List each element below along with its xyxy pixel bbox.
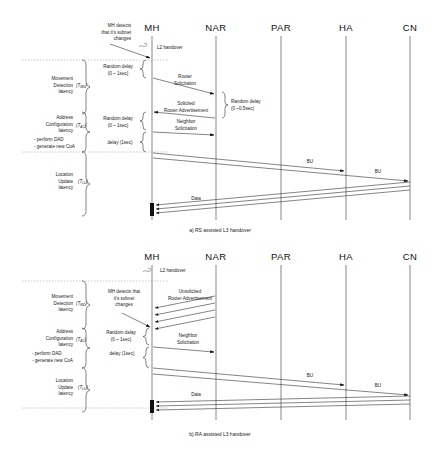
msg-ns-line2-a: Solicitation xyxy=(175,126,198,131)
msg-rs-line1-a: Router xyxy=(178,74,192,79)
phase-ac-line3-a: latency xyxy=(58,128,73,133)
node-header-mh-b: MH xyxy=(144,251,160,262)
msg-bu-ha-a: BU xyxy=(307,159,313,164)
node-header-nar: NAR xyxy=(205,22,226,33)
mh-execution-bar-b xyxy=(150,400,154,413)
phase-ac-bullet2-a: - generate new CoA xyxy=(34,144,76,149)
mh-execution-bar-a xyxy=(150,203,154,216)
phase-ac-line2-a: Configuration xyxy=(46,122,74,127)
l2-handover-label-b: L2 handover xyxy=(160,268,186,273)
phase-lu-line1-a: Location xyxy=(56,172,74,177)
delay-rd1-line1-a: Random delay xyxy=(103,64,133,69)
phase-md-line1-b: Movement xyxy=(52,294,74,299)
phase-lu-line3-b: latency xyxy=(58,391,73,396)
sequence-diagram-figure: MH NAR PAR HA CN L2 handover MH detects … xyxy=(0,0,441,461)
caption-diagram-b: b) RA assisted L3 handover xyxy=(189,431,251,437)
delay-rd2-line1-a: Random delay xyxy=(103,116,133,121)
node-header-mh: MH xyxy=(144,22,160,33)
node-header-cn-b: CN xyxy=(403,251,418,262)
msg-bu-ha-b: BU xyxy=(307,373,313,378)
mh-detects-line3-b: changes xyxy=(115,302,133,307)
phase-ac-bullet1-b: - perform DAD xyxy=(32,351,62,356)
phase-ac-bullet2-b: - generate new CoA xyxy=(32,358,74,363)
msg-ns-line1-b: Neighbor xyxy=(179,333,198,338)
phase-md-line3-b: latency xyxy=(58,307,73,312)
delay-rd2-line2-a: (0 ~ 1sec) xyxy=(108,123,129,128)
phase-md-line2-b: Detection xyxy=(54,301,74,306)
msg-ra-line1-a: Solicited xyxy=(177,101,195,106)
delay-rd-line1-b: Random delay xyxy=(106,330,136,335)
mh-detects-line1-a: MH detects xyxy=(108,23,132,28)
phase-lu-line1-b: Location xyxy=(56,378,74,383)
delay-dad-b: delay (1sec) xyxy=(109,351,134,356)
node-header-nar-b: NAR xyxy=(205,251,226,262)
l2-handover-label-a: L2 handover xyxy=(157,45,183,50)
msg-bu-cn-b: BU xyxy=(375,383,381,388)
mh-detects-line2-a: that it's subnet xyxy=(102,30,132,35)
msg-data-b: Data xyxy=(191,392,201,397)
msg-ura-line1-b: Unsolicited xyxy=(179,289,202,294)
node-header-ha: HA xyxy=(339,22,353,33)
mh-detects-line3-a: changes xyxy=(114,36,132,41)
phase-lu-line3-a: latency xyxy=(58,185,73,190)
phase-ac-line1-b: Address xyxy=(56,329,74,334)
msg-bu-cn-a: BU xyxy=(375,169,381,174)
figure-canvas: MH NAR PAR HA CN L2 handover MH detects … xyxy=(0,0,441,461)
phase-md-line1-a: Movement xyxy=(52,76,74,81)
phase-md-line2-a: Detection xyxy=(54,83,74,88)
node-header-par: PAR xyxy=(271,22,291,33)
node-header-ha-b: HA xyxy=(339,251,353,262)
msg-ns-line1-a: Neighbor xyxy=(177,119,196,124)
msg-ra-line2-a: Router Advertisement xyxy=(164,108,209,113)
mh-detects-line2-b: it's subnet xyxy=(114,296,135,301)
delay-nar-line2-a: (0 ~0.5sec) xyxy=(231,106,255,111)
phase-md-line3-a: latency xyxy=(58,89,73,94)
node-header-par-b: PAR xyxy=(271,251,291,262)
msg-ns-line2-b: Solicitation xyxy=(177,340,200,345)
phase-lu-line2-a: Update xyxy=(58,179,73,184)
delay-dad-a: delay (1sec) xyxy=(107,140,132,145)
caption-diagram-a: a) RS assisted L3 handover xyxy=(189,227,251,233)
msg-data-a: Data xyxy=(191,196,201,201)
node-header-cn: CN xyxy=(403,22,418,33)
phase-lu-line2-b: Update xyxy=(58,385,73,390)
mh-detects-line1-b: MH detects that xyxy=(108,289,141,294)
msg-rs-line2-a: Solicitation xyxy=(174,81,197,86)
phase-ac-line2-b: Configuration xyxy=(46,336,74,341)
phase-ac-line3-b: latency xyxy=(58,342,73,347)
delay-rd1-line2-a: (0 ~ 1sec) xyxy=(108,71,129,76)
phase-ac-bullet1-a: - perform DAD xyxy=(34,137,64,142)
phase-ac-line1-a: Address xyxy=(56,115,74,120)
delay-rd-line2-b: (0 ~ 1sec) xyxy=(111,337,132,342)
delay-nar-line1-a: Random delay xyxy=(231,99,261,104)
